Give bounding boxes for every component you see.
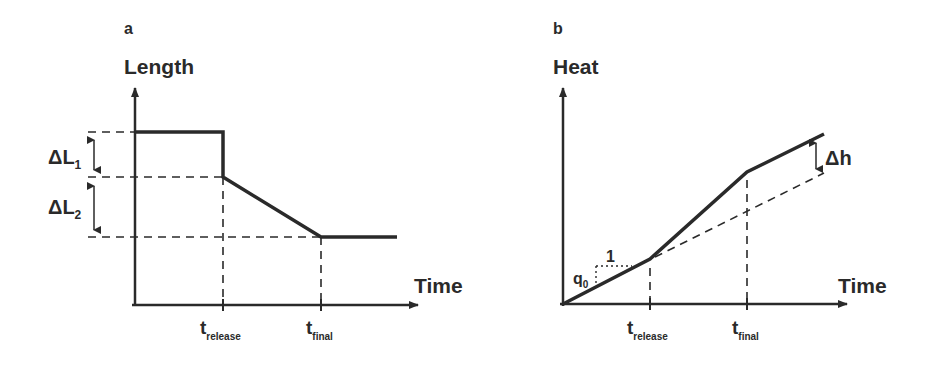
t-release-label: trelease [200,317,241,342]
y-axis-title-length: Length [124,55,194,78]
panel-b: b Heat Time 1 q0 Δh trelease tfinal [553,20,887,342]
guide-lines [88,132,321,305]
x-axis-title-time: Time [838,274,887,297]
delta-h-label: Δh [825,147,852,169]
panel-b-label: b [553,20,563,37]
t-final-label: tfinal [732,317,759,342]
x-axis-title-time: Time [414,274,463,297]
delta-l1-label: ΔL1 [48,146,82,172]
slope-run-label: 1 [606,248,615,265]
delta-l2-label: ΔL2 [48,196,82,222]
y-axis-title-heat: Heat [553,55,599,78]
guide-lines [650,173,824,304]
baseline-extrapolation [655,173,824,257]
panel-a-label: a [124,20,133,37]
t-release-label: trelease [627,317,668,342]
figure-canvas: a Length Time ΔL1 ΔL2 trelease tfinal b … [0,0,933,370]
t-final-label: tfinal [306,317,333,342]
heat-curve [563,134,824,304]
slope-q0-label: q0 [573,270,589,290]
length-curve [135,132,397,237]
panel-a: a Length Time ΔL1 ΔL2 trelease tfinal [48,20,463,342]
